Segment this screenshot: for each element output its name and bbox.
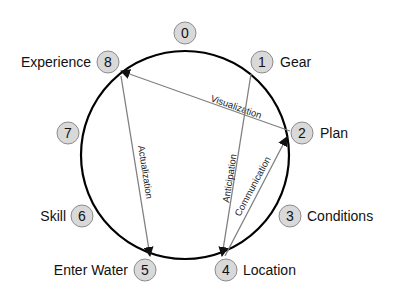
cycle-diagram: Visualization Actualization Anticipation… (0, 0, 396, 298)
node-label-conditions: Conditions (307, 208, 373, 224)
node-label-plan: Plan (320, 125, 348, 141)
node-0: 0 (174, 22, 196, 44)
node-number: 8 (104, 54, 112, 70)
node-number: 7 (64, 125, 72, 141)
node-6-skill: 6 Skill (40, 205, 93, 227)
node-number: 1 (258, 54, 266, 70)
node-number: 0 (181, 25, 189, 41)
edge-label-anticipation: Anticipation (220, 153, 239, 203)
node-number: 5 (141, 262, 149, 278)
node-number: 2 (298, 125, 306, 141)
node-5-enter-water: 5 Enter Water (54, 259, 156, 281)
edge-label-visualization: Visualization (209, 93, 263, 121)
node-1-gear: 1 Gear (251, 51, 311, 73)
node-number: 3 (286, 208, 294, 224)
edge-visualization: Visualization (121, 71, 290, 131)
edge-actualization: Actualization (121, 76, 155, 256)
node-number: 6 (78, 208, 86, 224)
node-2-plan: 2 Plan (291, 122, 348, 144)
node-label-enter-water: Enter Water (54, 262, 129, 278)
node-7: 7 (57, 122, 79, 144)
node-4-location: 4 Location (215, 259, 296, 281)
node-3-conditions: 3 Conditions (279, 205, 373, 227)
node-label-experience: Experience (21, 54, 91, 70)
node-8-experience: 8 Experience (21, 51, 119, 73)
node-label-skill: Skill (40, 208, 66, 224)
cycle-circle (81, 51, 289, 259)
node-label-location: Location (243, 262, 296, 278)
node-label-gear: Gear (280, 54, 311, 70)
node-number: 4 (222, 262, 230, 278)
edge-label-communication: Communication (232, 155, 273, 218)
